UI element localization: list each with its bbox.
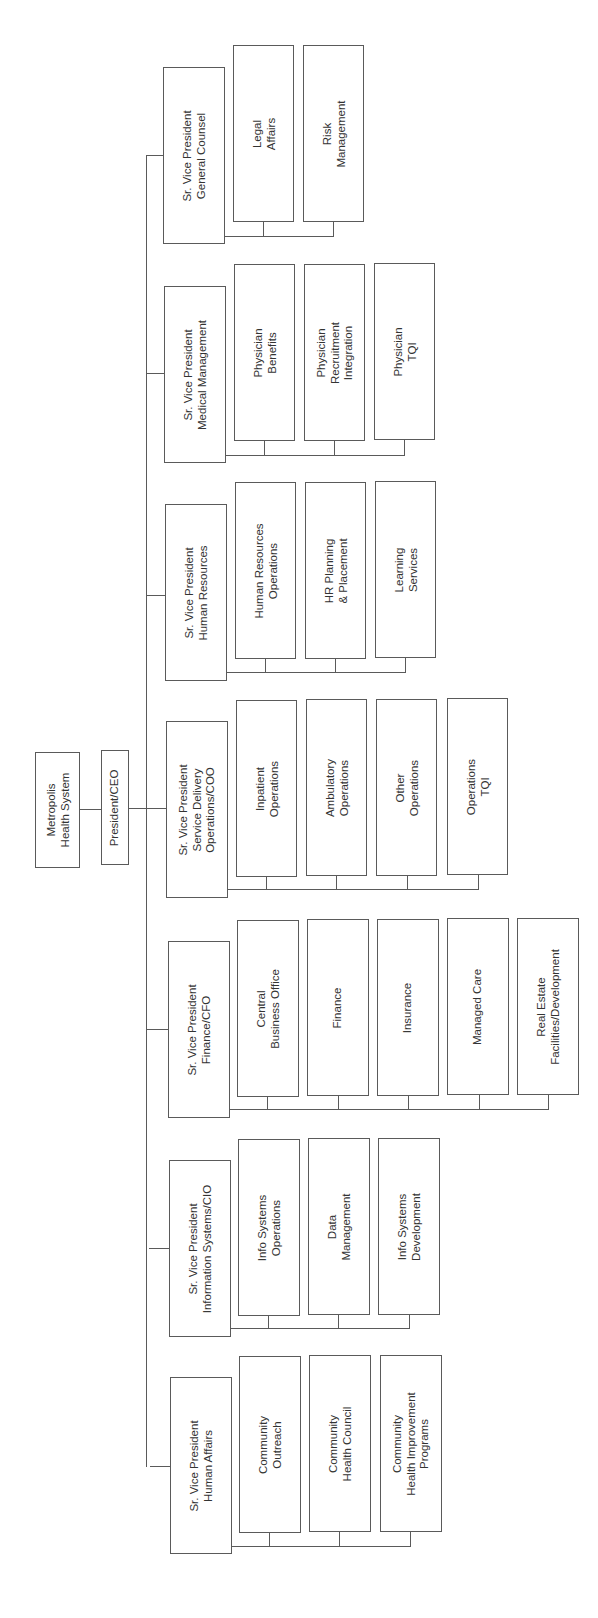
child-drop — [263, 222, 264, 236]
child-drop — [404, 440, 405, 455]
dept-label: Community Outreach — [257, 1415, 284, 1473]
dept-label: Risk Management — [320, 100, 347, 167]
dept-physician-recruitment: Physician Recruitment Integration — [304, 264, 365, 441]
dept-hr-operations: Human Resources Operations — [235, 482, 296, 659]
child-drop — [334, 441, 335, 455]
dept-label: Managed Care — [471, 968, 485, 1044]
dept-label: Physician TQI — [391, 327, 418, 376]
dept-label: HR Planning & Placement — [322, 538, 349, 603]
child-drop — [407, 876, 408, 889]
spine-connector — [146, 155, 147, 1467]
dept-physician-tqi: Physician TQI — [374, 263, 435, 440]
root-node-metropolis: Metropolis Health System — [35, 752, 80, 868]
svp-label: Sr. Vice President Medical Management — [182, 320, 209, 430]
child-drop — [479, 1094, 480, 1109]
svp-label: Sr. Vice President General Counsel — [181, 110, 208, 201]
svp-service-delivery: Sr. Vice President Service Delivery Oper… — [166, 721, 228, 898]
dept-info-systems-development: Info Systems Development — [378, 1138, 440, 1315]
connector-root-ceo — [79, 809, 101, 810]
dept-operations-tqi: Operations TQI — [447, 698, 508, 875]
dept-central-business-office: Central Business Office — [237, 920, 299, 1097]
svp-human-resources: Sr. Vice President Human Resources — [165, 504, 227, 681]
children-bus — [230, 1109, 549, 1110]
dept-label: Physician Recruitment Integration — [314, 322, 355, 384]
child-drop — [333, 222, 334, 236]
dept-community-outreach: Community Outreach — [239, 1356, 301, 1533]
children-bus — [226, 455, 405, 456]
child-drop — [409, 1314, 410, 1328]
dept-ambulatory-operations: Ambulatory Operations — [306, 699, 367, 876]
child-drop — [548, 1094, 549, 1109]
dept-physician-benefits: Physician Benefits — [234, 264, 295, 441]
dept-risk-management: Risk Management — [303, 45, 364, 222]
connector-spine-head — [146, 373, 164, 374]
dept-label: Data Management — [326, 1193, 353, 1260]
dept-data-management: Data Management — [308, 1138, 370, 1315]
svp-label: Sr. Vice President Service Delivery Oper… — [177, 764, 218, 855]
dept-label: Human Resources Operations — [252, 523, 279, 618]
dept-label: Inpatient Operations — [253, 760, 280, 816]
child-drop — [268, 1315, 269, 1328]
ceo-node: President/CEO — [101, 750, 129, 865]
dept-finance: Finance — [307, 919, 369, 1096]
connector-ceo-spine — [128, 808, 167, 809]
dept-learning-services: Learning Services — [375, 481, 436, 658]
children-bus — [227, 672, 406, 673]
svp-general-counsel: Sr. Vice President General Counsel — [163, 67, 225, 244]
child-drop — [336, 876, 337, 889]
dept-hr-planning: HR Planning & Placement — [305, 482, 366, 659]
dept-label: Operations TQI — [464, 758, 491, 814]
child-drop — [478, 875, 479, 889]
dept-label: Physician Benefits — [251, 328, 278, 377]
children-bus — [225, 236, 334, 237]
ceo-node-label: President/CEO — [108, 769, 122, 846]
dept-label: Other Operations — [393, 759, 420, 815]
dept-insurance: Insurance — [377, 919, 439, 1096]
dept-label: Community Health Improvement Programs — [391, 1392, 432, 1496]
children-bus — [232, 1546, 411, 1547]
svp-finance: Sr. Vice President Finance/CFO — [168, 941, 230, 1118]
dept-community-health-council: Community Health Council — [309, 1355, 371, 1532]
child-drop — [410, 1532, 411, 1546]
dept-label: Legal Affairs — [250, 117, 277, 149]
connector-spine-head — [149, 1248, 169, 1249]
svp-information-systems: Sr. Vice President Information Systems/C… — [169, 1160, 231, 1337]
child-drop — [335, 659, 336, 672]
dept-label: Central Business Office — [255, 969, 282, 1049]
dept-label: Ambulatory Operations — [323, 758, 350, 816]
children-bus — [231, 1328, 410, 1329]
child-drop — [339, 1532, 340, 1546]
child-drop — [264, 441, 265, 455]
child-drop — [338, 1095, 339, 1109]
root-node-label: Metropolis Health System — [44, 773, 71, 848]
dept-label: Info Systems Development — [396, 1193, 423, 1261]
dept-label: Finance — [331, 987, 345, 1028]
connector-spine-head — [147, 1029, 168, 1030]
dept-label: Learning Services — [392, 547, 419, 592]
child-drop — [405, 658, 406, 672]
dept-inpatient-operations: Inpatient Operations — [236, 700, 297, 877]
dept-label: Info Systems Operations — [256, 1194, 283, 1260]
connector-spine-head — [146, 595, 165, 596]
svp-label: Sr. Vice President Finance/CFO — [186, 984, 213, 1075]
dept-label: Insurance — [401, 982, 415, 1033]
dept-community-health-improvement: Community Health Improvement Programs — [380, 1355, 442, 1532]
connector-spine-head — [150, 1466, 170, 1467]
dept-managed-care: Managed Care — [447, 918, 509, 1095]
child-drop — [338, 1314, 339, 1328]
dept-other-operations: Other Operations — [376, 699, 437, 876]
svp-human-affairs: Sr. Vice President Human Affairs — [170, 1377, 232, 1554]
dept-legal-affairs: Legal Affairs — [233, 45, 294, 222]
child-drop — [266, 877, 267, 889]
svp-label: Sr. Vice President Information Systems/C… — [187, 1184, 214, 1312]
child-drop — [267, 1096, 268, 1109]
svp-label: Sr. Vice President Human Affairs — [188, 1420, 215, 1511]
children-bus — [228, 889, 479, 890]
child-drop — [269, 1533, 270, 1546]
dept-real-estate: Real Estate Facilities/Development — [517, 918, 579, 1095]
connector-spine-head — [146, 155, 164, 156]
svp-medical-management: Sr. Vice President Medical Management — [164, 286, 226, 463]
child-drop — [408, 1095, 409, 1109]
svp-label: Sr. Vice President Human Resources — [183, 545, 210, 640]
dept-label: Community Health Council — [327, 1406, 354, 1481]
